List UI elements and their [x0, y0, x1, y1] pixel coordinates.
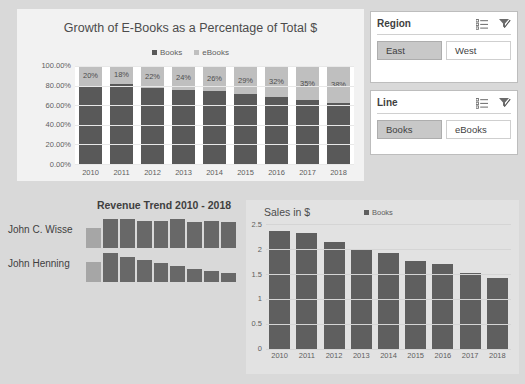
growth-chart-column[interactable]: 22% [141, 66, 164, 164]
bar-segment-ebooks[interactable]: 26% [203, 66, 226, 91]
bar-segment-ebooks[interactable]: 29% [234, 66, 257, 94]
gridline [266, 249, 511, 250]
bar-segment-ebooks[interactable]: 18% [110, 66, 133, 84]
sparkline-bar [204, 271, 219, 282]
sparkline-bar [154, 221, 169, 248]
bar-segment-ebooks[interactable]: 22% [141, 66, 164, 88]
sparkline-bar [187, 222, 202, 248]
sales-bar[interactable] [324, 242, 345, 350]
x-tick-label: 2015 [234, 168, 257, 177]
slicer-line[interactable]: Line BookseBooks [370, 90, 518, 155]
legend-label-books: Books [372, 208, 393, 217]
y-tick-label: 80.00% [46, 81, 71, 90]
y-tick-label: 1.5 [252, 270, 262, 279]
x-tick-label: 2012 [324, 351, 345, 360]
multi-select-icon[interactable] [476, 95, 489, 113]
square-swatch-icon [194, 50, 199, 55]
growth-chart-column[interactable]: 24% [172, 66, 195, 164]
sparkline-bar [187, 269, 202, 282]
gridline [266, 324, 511, 325]
slicer-line-items: BookseBooks [371, 114, 517, 145]
gridline [75, 86, 354, 87]
bar-segment-ebooks[interactable]: 35% [296, 66, 319, 100]
bar-data-label: 24% [176, 73, 191, 82]
x-tick-label: 2011 [296, 351, 317, 360]
sparkline-bar [221, 273, 236, 282]
sparkline-bar [86, 228, 101, 248]
slicer-item-east[interactable]: East [377, 41, 442, 60]
sales-bar[interactable] [432, 264, 453, 349]
slicer-item-ebooks[interactable]: eBooks [446, 120, 511, 139]
slicer-line-title: Line [377, 97, 398, 108]
growth-chart-column[interactable]: 26% [203, 66, 226, 164]
growth-chart-plot-area: 20%18%22%24%26%29%32%35%38% [75, 66, 354, 164]
slicer-region[interactable]: Region EastWest [370, 11, 518, 83]
sales-chart-panel[interactable]: Sales in $ Books 2.521.510.50 2010201120… [246, 200, 519, 374]
bar-segment-books[interactable] [172, 90, 195, 164]
sales-chart-column[interactable] [405, 224, 426, 349]
y-tick-label: 0.00% [50, 160, 71, 169]
slicer-item-label: West [455, 45, 476, 56]
sales-chart-column[interactable] [487, 224, 508, 349]
bar-segment-ebooks[interactable]: 32% [265, 66, 288, 97]
sales-bar[interactable] [378, 253, 399, 350]
slicer-line-header: Line [371, 91, 517, 113]
gridline [75, 66, 354, 67]
bar-data-label: 26% [207, 74, 222, 83]
revenue-trend-row: John C. Wisse [8, 216, 244, 248]
bar-segment-books[interactable] [203, 91, 226, 164]
sales-chart-column[interactable] [351, 224, 372, 349]
bar-segment-books[interactable] [265, 97, 288, 164]
bar-segment-books[interactable] [296, 100, 319, 164]
sales-chart-plot-area [266, 224, 511, 349]
gridline [75, 144, 354, 145]
sales-chart-column[interactable] [324, 224, 345, 349]
x-tick-label: 2013 [351, 351, 372, 360]
bar-segment-ebooks[interactable]: 20% [79, 66, 102, 86]
growth-chart-column[interactable]: 20% [79, 66, 102, 164]
sales-chart-column[interactable] [378, 224, 399, 349]
sales-bar[interactable] [460, 273, 481, 349]
growth-percent-chart-panel[interactable]: Growth of E-Books as a Percentage of Tot… [17, 9, 364, 181]
x-tick-label: 2018 [327, 168, 350, 177]
growth-chart-column[interactable]: 29% [234, 66, 257, 164]
growth-chart-column[interactable]: 32% [265, 66, 288, 164]
y-tick-label: 1 [258, 294, 262, 303]
bar-data-label: 18% [114, 70, 129, 79]
sparkline-bar [137, 221, 152, 248]
slicer-region-header: Region [371, 12, 517, 34]
growth-chart-column[interactable]: 35% [296, 66, 319, 164]
sales-chart-column[interactable] [269, 224, 290, 349]
y-tick-label: 2.5 [252, 220, 262, 229]
growth-chart-bars: 20%18%22%24%26%29%32%35%38% [75, 66, 354, 164]
sales-bar[interactable] [487, 278, 508, 349]
y-tick-label: 60.00% [46, 101, 71, 110]
revenue-sparkline-bars [86, 250, 236, 282]
growth-chart-title: Growth of E-Books as a Percentage of Tot… [17, 21, 364, 35]
slicer-item-label: eBooks [455, 124, 487, 135]
growth-chart-column[interactable]: 38% [327, 66, 350, 164]
bar-segment-books[interactable] [327, 103, 350, 164]
legend-item-ebooks: eBooks [194, 48, 229, 57]
sparkline-bar [221, 222, 236, 248]
sparkline-bar [103, 219, 118, 248]
bar-data-label: 20% [83, 71, 98, 80]
revenue-sparkline-bars [86, 216, 236, 248]
sales-chart-column[interactable] [460, 224, 481, 349]
gridline [266, 299, 511, 300]
multi-select-icon[interactable] [476, 16, 489, 34]
sparkline-bar [103, 253, 118, 282]
slicer-item-books[interactable]: Books [377, 120, 442, 139]
sales-chart-column[interactable] [432, 224, 453, 349]
sales-chart-column[interactable] [296, 224, 317, 349]
sparkline-bar [170, 219, 185, 248]
clear-filter-icon[interactable] [498, 16, 511, 34]
gridline [266, 224, 511, 225]
sales-chart-y-axis: 2.521.510.50 [246, 220, 262, 353]
gridline [75, 164, 354, 165]
x-tick-label: 2015 [405, 351, 426, 360]
slicer-item-west[interactable]: West [446, 41, 511, 60]
revenue-trend-row: John Henning [8, 250, 244, 282]
clear-filter-icon[interactable] [498, 95, 511, 113]
growth-chart-column[interactable]: 18% [110, 66, 133, 164]
